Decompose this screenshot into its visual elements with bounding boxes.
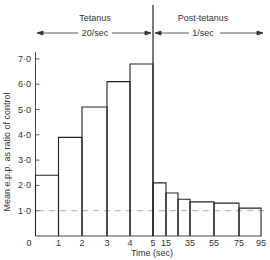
x-tick-label: 95 [256, 238, 266, 248]
y-tick-label: 7·0 [18, 54, 31, 64]
x-axis-title: Time (sec) [131, 248, 173, 258]
histogram-bar [153, 183, 166, 236]
chart: Tetanus 20/sec Post-tetanus 1/sec 1·02·0… [0, 0, 270, 260]
histogram-bar [166, 193, 178, 236]
histogram-bar [36, 175, 59, 236]
x-tick-label: 5 [150, 238, 155, 248]
y-tick-label: 5·0 [18, 105, 31, 115]
x-tick-label: 15 [161, 238, 171, 248]
histogram-bar [239, 208, 261, 236]
header-annotations: Tetanus 20/sec Post-tetanus 1/sec [37, 13, 263, 38]
tetanus-rate: 20/sec [82, 28, 109, 38]
histogram-bar [190, 202, 214, 236]
histogram-bar [59, 137, 83, 236]
bars [36, 64, 262, 236]
histogram-bar [178, 199, 190, 236]
y-tick-label: 3·0 [18, 155, 31, 165]
histogram-bar [107, 82, 130, 236]
tetanus-label: Tetanus [79, 13, 111, 23]
y-tick-label: 4·0 [18, 130, 31, 140]
x-tick-label: 2 [79, 238, 84, 248]
x-tick-label: 4 [127, 238, 132, 248]
x-tick-label: 55 [209, 238, 219, 248]
x-tick-label: 0 [26, 238, 31, 248]
x-tick-label: 3 [104, 238, 109, 248]
post-tetanus-label: Post-tetanus [178, 13, 229, 23]
y-tick-label: 1·0 [18, 206, 31, 216]
histogram-bar [214, 203, 239, 236]
y-tick-label: 6·0 [18, 79, 31, 89]
post-tetanus-rate: 1/sec [192, 28, 214, 38]
histogram-bar [82, 107, 107, 236]
x-ticks: 0123451535557595 [26, 238, 266, 248]
y-axis-title: Mean e.p.p. as ratio of control [2, 92, 12, 211]
y-tick-label: 2·0 [18, 180, 31, 190]
histogram-bar [130, 64, 153, 236]
y-ticks: 1·02·03·04·05·06·07·0 [18, 54, 40, 216]
x-tick-label: 75 [234, 238, 244, 248]
x-tick-label: 35 [185, 238, 195, 248]
x-tick-label: 1 [56, 238, 61, 248]
